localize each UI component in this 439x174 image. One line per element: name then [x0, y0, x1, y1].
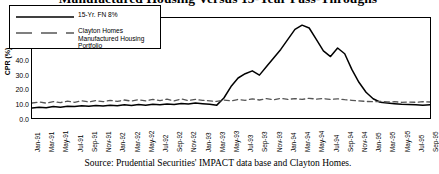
- x-axis-tick: Mar-94: [305, 132, 311, 152]
- x-axis-tick: May-92: [149, 131, 155, 152]
- series-line-1: [32, 98, 430, 103]
- x-axis-tick: May-94: [319, 131, 325, 152]
- x-axis-tick: May-93: [234, 131, 240, 152]
- x-axis-tick: Jan-95: [376, 132, 382, 152]
- x-axis-tick: May-95: [405, 131, 411, 152]
- x-axis-tick: Nov-92: [191, 131, 197, 152]
- x-axis-tick: Jul-93: [248, 135, 254, 152]
- x-axis-tick: Jan-93: [206, 132, 212, 152]
- x-axis-tick: Sep-95: [433, 131, 439, 152]
- x-axis-tick: Jul-92: [163, 135, 169, 152]
- legend-swatch-dashed-icon: [16, 28, 74, 38]
- x-axis-tick: Jul-91: [78, 135, 84, 152]
- y-axis-tick: 10.0: [1, 101, 29, 108]
- x-axis-tick: Mar-92: [135, 132, 141, 152]
- chart-legend: 15-Yr. FN 8% Clayton Homes Manufactured …: [9, 5, 161, 49]
- x-axis-tick: Nov-91: [106, 131, 112, 152]
- y-axis-tick: 20.0: [1, 86, 29, 93]
- y-axis-tick: 0.0: [1, 116, 29, 123]
- legend-swatch-solid-icon: [16, 12, 74, 22]
- x-axis-tick: Sep-92: [177, 131, 183, 152]
- x-axis-tick: Jan-94: [291, 132, 297, 152]
- x-axis-tick: Jul-95: [419, 135, 425, 152]
- x-axis-tick: Jan-91: [35, 132, 41, 152]
- x-axis-tick: Sep-94: [348, 131, 354, 152]
- legend-label-0: 15-Yr. FN 8%: [78, 11, 162, 19]
- x-axis-tick: Sep-93: [262, 131, 268, 152]
- x-axis-tick: Sep-91: [92, 131, 98, 152]
- x-axis-tick: Mar-93: [220, 132, 226, 152]
- x-axis-tick: Nov-93: [277, 131, 283, 152]
- x-axis-tick-labels: Jan-91Mar-91May-91Jul-91Sep-91Nov-91Jan-…: [31, 120, 431, 156]
- x-axis-tick: Jan-92: [120, 132, 126, 152]
- x-axis-tick: Nov-94: [362, 131, 368, 152]
- x-axis-tick: Jul-94: [334, 135, 340, 152]
- legend-label-1: Clayton Homes Manufactured Housing Portf…: [78, 27, 162, 50]
- x-axis-tick: Mar-95: [390, 132, 396, 152]
- x-axis-tick: Mar-91: [49, 132, 55, 152]
- source-note: Source: Prudential Securities' IMPACT da…: [0, 158, 436, 168]
- x-axis-tick: May-91: [63, 131, 69, 152]
